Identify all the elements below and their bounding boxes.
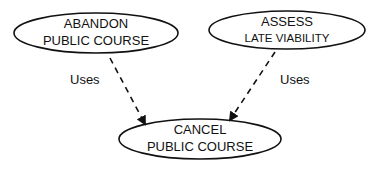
node-label-line2: PUBLIC COURSE <box>43 33 150 48</box>
node-label-line2: PUBLIC COURSE <box>147 139 254 154</box>
use-case-diagram: ABANDON PUBLIC COURSE ASSESS LATE VIABIL… <box>0 0 382 171</box>
edge-assess-to-cancel: Uses <box>230 52 310 120</box>
edge-label: Uses <box>70 72 100 87</box>
edge-label: Uses <box>280 72 310 87</box>
node-label-line1: ASSESS <box>261 14 313 29</box>
node-label-line1: ABANDON <box>64 16 128 31</box>
node-label-line1: CANCEL <box>174 122 227 137</box>
node-abandon-public-course[interactable]: ABANDON PUBLIC COURSE <box>14 13 178 53</box>
node-cancel-public-course[interactable]: CANCEL PUBLIC COURSE <box>119 119 281 159</box>
edge-abandon-to-cancel: Uses <box>70 58 145 124</box>
node-assess-late-viability[interactable]: ASSESS LATE VIABILITY <box>209 11 365 49</box>
node-label-line2: LATE VIABILITY <box>245 32 330 44</box>
